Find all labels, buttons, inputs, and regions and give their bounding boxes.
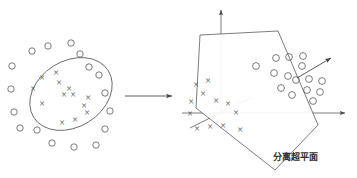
cross-point: × (72, 114, 78, 125)
circle-point (49, 140, 55, 146)
circle-point (68, 40, 74, 46)
circle-point (300, 53, 307, 60)
cross-point: × (39, 72, 45, 83)
circle-point (319, 78, 326, 85)
circle-point (71, 144, 77, 150)
circle-point (102, 126, 108, 132)
circle-point (29, 48, 35, 54)
input-space-crosses: × × × × × × × × × × × × × (30, 67, 91, 128)
circle-point (299, 63, 306, 70)
hyperplane-label: 分离超平面 (273, 151, 318, 162)
circle-point (17, 125, 23, 131)
circle-point (86, 64, 92, 70)
circle-point (34, 127, 40, 133)
circle-point (11, 109, 17, 115)
cross-point: × (220, 120, 226, 131)
normal-vector-arrow (297, 58, 331, 78)
circle-point (8, 86, 14, 92)
circle-point (102, 90, 108, 96)
circle-point (107, 108, 113, 114)
cross-point: × (237, 124, 243, 135)
cross-point: × (84, 107, 90, 118)
cross-point: × (194, 123, 200, 134)
cross-point: × (188, 96, 194, 107)
cross-point: × (233, 107, 239, 118)
circle-point (77, 51, 83, 57)
input-space-group: × × × × × × × × × × × × × (8, 40, 126, 150)
cross-point: × (61, 89, 67, 100)
cross-point: × (207, 121, 213, 132)
circle-point (96, 72, 102, 78)
cross-point: × (30, 83, 36, 94)
circle-point (45, 43, 51, 49)
circle-point (317, 89, 324, 96)
circle-point (9, 63, 15, 69)
cross-point: × (193, 79, 199, 90)
cross-point: × (205, 75, 211, 86)
cross-point: × (213, 95, 219, 106)
cross-point: × (56, 77, 62, 88)
kernel-trick-figure: ·· ·· ··· ·· (0, 0, 357, 178)
circle-point (93, 142, 99, 148)
cross-point: × (39, 98, 45, 109)
cross-point: × (225, 98, 231, 109)
diagram-canvas: × × × × × × × × × × × × × (0, 0, 357, 178)
feature-space-group: × × × × × × × × × × × × 分离超平面 (182, 10, 345, 170)
circle-point (310, 98, 317, 105)
cross-point: × (59, 117, 65, 128)
cross-point: × (187, 108, 193, 119)
cross-point: × (200, 88, 206, 99)
circle-point (304, 87, 311, 94)
circle-point (306, 76, 313, 83)
cross-point: × (70, 89, 76, 100)
